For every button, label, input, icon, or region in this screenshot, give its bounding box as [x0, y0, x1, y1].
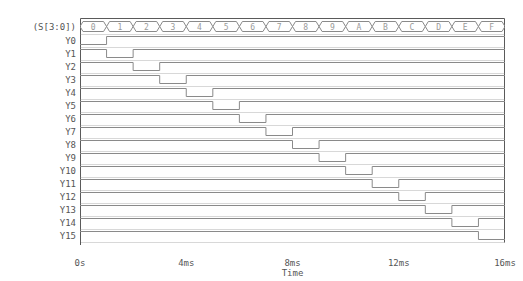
bus-segment: 6: [239, 22, 266, 32]
signal-label-y12: Y12: [60, 192, 76, 202]
signal-label-y15: Y15: [60, 231, 76, 241]
bus-segment-label: 0: [91, 23, 96, 32]
x-tick-label: 12ms: [388, 258, 410, 268]
bus-segment-label: C: [410, 23, 415, 32]
signal-trace: [80, 232, 505, 240]
bus-segment: E: [452, 22, 479, 32]
signal-label-y10: Y10: [60, 166, 76, 176]
waveform-svg: 0123456789ABCDEF: [80, 18, 505, 245]
signal-trace: [80, 128, 505, 136]
signal-waveform-y9: [80, 154, 505, 165]
signal-waveform-y8: [80, 141, 505, 152]
signal-waveform-y0: [80, 37, 505, 48]
bus-segment-label: 3: [171, 23, 176, 32]
signal-trace: [80, 76, 505, 84]
bus-segment-label: 8: [303, 23, 308, 32]
bus-segment: 7: [266, 22, 293, 32]
bus-segment: 1: [107, 22, 134, 32]
signal-label-y1: Y1: [65, 49, 76, 59]
signal-trace: [80, 154, 505, 162]
x-tick-label: 0s: [75, 258, 86, 268]
timing-diagram: (S[3:0])Y0Y1Y2Y3Y4Y5Y6Y7Y8Y9Y10Y11Y12Y13…: [0, 0, 523, 281]
signal-trace: [80, 167, 505, 175]
signal-trace: [80, 141, 505, 149]
signal-label-y14: Y14: [60, 218, 76, 228]
signal-waveform-y11: [80, 180, 505, 191]
x-axis-title: Time: [282, 268, 304, 278]
bus-segment-label: E: [463, 23, 468, 32]
signal-waveform-y4: [80, 89, 505, 100]
signal-waveform-y2: [80, 63, 505, 74]
signal-waveform-y7: [80, 128, 505, 139]
bus-segment: F: [478, 22, 505, 32]
bus-segment-label: 1: [117, 23, 122, 32]
x-tick-label: 4ms: [178, 258, 194, 268]
signal-label-y13: Y13: [60, 205, 76, 215]
bus-segment-label: B: [383, 23, 388, 32]
bus-segment-label: 9: [330, 23, 335, 32]
bus-segment: A: [346, 22, 373, 32]
signal-trace: [80, 115, 505, 123]
signal-label-y4: Y4: [65, 88, 76, 98]
bus-segment-label: F: [489, 23, 494, 32]
signal-waveform-y3: [80, 76, 505, 87]
bus-segment: 8: [293, 22, 320, 32]
bus-segment: 9: [319, 22, 346, 32]
signal-waveform-y13: [80, 206, 505, 217]
signal-waveform-y6: [80, 115, 505, 126]
bus-segment: B: [372, 22, 399, 32]
signal-label-y6: Y6: [65, 114, 76, 124]
x-tick-label: 16ms: [494, 258, 516, 268]
signal-trace: [80, 193, 505, 201]
bus-segment-label: 6: [250, 23, 255, 32]
waveform-plot-area: 0123456789ABCDEF: [80, 18, 505, 245]
signal-label-column: (S[3:0])Y0Y1Y2Y3Y4Y5Y6Y7Y8Y9Y10Y11Y12Y13…: [0, 0, 76, 281]
signal-trace: [80, 63, 505, 71]
bus-segment-label: 4: [197, 23, 202, 32]
signal-trace: [80, 89, 505, 97]
signal-label-y3: Y3: [65, 75, 76, 85]
signal-label-y2: Y2: [65, 62, 76, 72]
bus-signal-label: (S[3:0]): [33, 22, 76, 32]
signal-label-y9: Y9: [65, 153, 76, 163]
signal-label-y8: Y8: [65, 140, 76, 150]
bus-segment-label: A: [356, 23, 361, 32]
bus-segment-label: 2: [144, 23, 149, 32]
bus-segment: 2: [133, 22, 160, 32]
signal-trace: [80, 102, 505, 110]
x-tick-label: 8ms: [284, 258, 300, 268]
signal-waveform-y5: [80, 102, 505, 113]
signal-waveform-y12: [80, 193, 505, 204]
signal-label-y0: Y0: [65, 36, 76, 46]
signal-waveform-y10: [80, 167, 505, 178]
signal-label-y5: Y5: [65, 101, 76, 111]
bus-segment: D: [425, 22, 452, 32]
signal-waveform-y1: [80, 50, 505, 61]
bus-segment-label: D: [436, 23, 441, 32]
bus-segment-label: 7: [277, 23, 282, 32]
signal-label-y7: Y7: [65, 127, 76, 137]
bus-segment: 4: [186, 22, 213, 32]
bus-segment-label: 5: [224, 23, 229, 32]
signal-trace: [80, 180, 505, 188]
signal-trace: [80, 50, 505, 58]
signal-trace: [80, 206, 505, 214]
bus-segment: 3: [160, 22, 187, 32]
signal-waveform-y15: [80, 232, 505, 243]
signal-trace: [80, 37, 505, 45]
bus-segment: C: [399, 22, 426, 32]
bus-waveform-row: 0123456789ABCDEF: [80, 22, 505, 32]
bus-segment: 0: [80, 22, 107, 32]
bus-segment: 5: [213, 22, 240, 32]
signal-trace: [80, 219, 505, 227]
signal-label-y11: Y11: [60, 179, 76, 189]
signal-waveform-y14: [80, 219, 505, 230]
